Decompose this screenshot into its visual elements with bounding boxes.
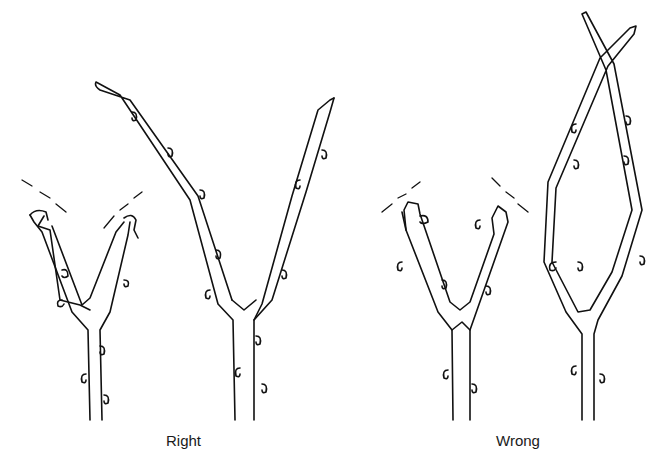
right-label: Right bbox=[166, 432, 201, 449]
wrong-crossing-branch bbox=[544, 12, 645, 420]
right-pruned-branch bbox=[22, 180, 142, 420]
wrong-label: Wrong bbox=[496, 432, 540, 449]
pruning-diagram bbox=[0, 0, 672, 467]
wrong-pruned-branch bbox=[382, 178, 528, 420]
right-unpruned-branch bbox=[96, 82, 335, 420]
